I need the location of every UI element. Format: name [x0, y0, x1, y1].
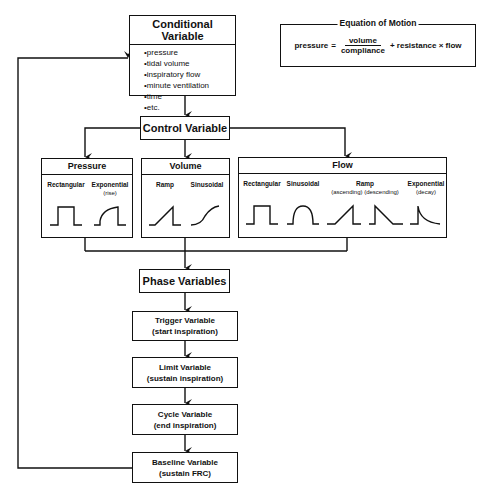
waveform-flow-sinusoidal: Sinusoidal [283, 180, 323, 228]
trigger-variable-desc: (start inspiration) [152, 326, 218, 337]
baseline-variable-desc: (sustain FRC) [159, 468, 211, 479]
waveform-label: Rectangular [44, 181, 88, 189]
waveform-sublabel: (decay) [405, 188, 447, 196]
rectangular-wave-icon [48, 203, 84, 229]
baseline-variable-box: Baseline Variable (sustain FRC) [132, 452, 238, 483]
sinusoidal-half-wave-icon [285, 202, 321, 228]
cycle-variable-name: Cycle Variable [158, 409, 212, 420]
cycle-variable-box: Cycle Variable (end inspiration) [132, 404, 238, 435]
ramp-ascending-descending-wave-icon [325, 202, 405, 228]
exponential-decay-wave-icon [408, 202, 444, 228]
pressure-category-box: Pressure Rectangular Exponential (rise) [41, 158, 133, 238]
rectangular-wave-icon [244, 202, 280, 228]
conditional-variable-box: Conditional Variable pressure tidal volu… [129, 15, 236, 96]
equation-of-motion-box: Equation of Motion pressure = volume com… [280, 24, 476, 67]
waveform-label: Sinusoidal [186, 181, 228, 189]
waveform-sublabel: (rise) [88, 189, 132, 197]
connector-lines [0, 0, 486, 497]
waveform-sublabel: (ascending) (descending) [325, 188, 405, 196]
control-variable-title: Control Variable [143, 122, 227, 134]
volume-category-box: Volume Ramp Sinusoidal [141, 158, 230, 238]
waveform-sublabel [144, 189, 186, 197]
conditional-variable-title: Conditional Variable [130, 16, 235, 45]
waveform-sublabel [241, 188, 283, 196]
equation-denominator: compliance [339, 46, 387, 55]
waveform-flow-exponential: Exponential (decay) [405, 180, 447, 228]
phase-variables-title: Phase Variables [143, 275, 227, 287]
equation-numerator: volume [345, 36, 381, 46]
sinusoidal-s-wave-icon [189, 203, 225, 229]
list-item: etc. [144, 102, 235, 113]
waveform-label: Exponential [88, 181, 132, 189]
equation-equals: = [331, 41, 336, 50]
limit-variable-name: Limit Variable [159, 362, 211, 373]
waveform-pressure-rectangular: Rectangular [44, 181, 88, 229]
list-item: tidal volume [144, 58, 235, 69]
equation-lhs: pressure [294, 41, 328, 50]
waveform-label: Sinusoidal [283, 180, 323, 188]
waveform-pressure-exponential: Exponential (rise) [88, 181, 132, 229]
waveform-sublabel [186, 189, 228, 197]
waveform-label: Rectangular [241, 180, 283, 188]
waveform-sublabel [283, 188, 323, 196]
exponential-rise-wave-icon [92, 203, 128, 229]
cycle-variable-desc: (end inspiration) [154, 420, 217, 431]
ramp-wave-icon [147, 203, 183, 229]
limit-variable-desc: (sustain inspiration) [147, 373, 223, 384]
baseline-variable-name: Baseline Variable [152, 457, 218, 468]
equation-body: pressure = volume compliance + resistanc… [281, 36, 475, 55]
list-item: time [144, 91, 235, 102]
control-variable-box: Control Variable [140, 116, 230, 140]
phase-variables-box: Phase Variables [139, 269, 230, 293]
waveform-label: Ramp [144, 181, 186, 189]
equation-rhs: + resistance × flow [390, 41, 462, 50]
conditional-variable-list: pressure tidal volume inspiratory flow m… [130, 47, 235, 113]
flow-category-box: Flow Rectangular Sinusoidal Ramp (ascend… [238, 157, 447, 238]
list-item: inspiratory flow [144, 69, 235, 80]
waveform-label: Exponential [405, 180, 447, 188]
trigger-variable-name: Trigger Variable [155, 315, 215, 326]
waveform-volume-ramp: Ramp [144, 181, 186, 229]
limit-variable-box: Limit Variable (sustain inspiration) [132, 357, 238, 388]
list-item: minute ventilation [144, 80, 235, 91]
equation-fraction: volume compliance [339, 36, 387, 55]
volume-title: Volume [142, 159, 229, 175]
waveform-sublabel [44, 189, 88, 197]
waveform-label: Ramp [325, 180, 405, 188]
pressure-title: Pressure [42, 159, 132, 175]
trigger-variable-box: Trigger Variable (start inspiration) [132, 311, 238, 341]
flow-title: Flow [239, 158, 446, 174]
waveform-flow-ramp: Ramp (ascending) (descending) [325, 180, 405, 228]
waveform-flow-rectangular: Rectangular [241, 180, 283, 228]
list-item: pressure [144, 47, 235, 58]
equation-title: Equation of Motion [338, 18, 419, 28]
waveform-volume-sinusoidal: Sinusoidal [186, 181, 228, 229]
